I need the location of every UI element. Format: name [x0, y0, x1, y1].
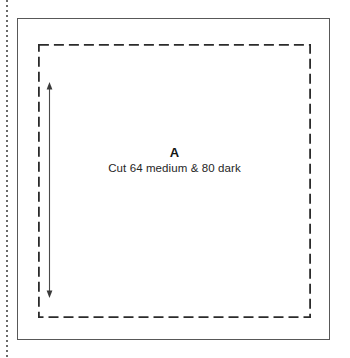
piece-letter: A — [38, 146, 311, 159]
pattern-page: A Cut 64 medium & 80 dark — [0, 0, 350, 358]
piece-label-block: A Cut 64 medium & 80 dark — [38, 146, 311, 175]
page-edge-perforation-line — [6, 0, 8, 358]
template-outline-rectangle — [17, 18, 330, 340]
cut-instructions-text: Cut 64 medium & 80 dark — [38, 163, 311, 175]
